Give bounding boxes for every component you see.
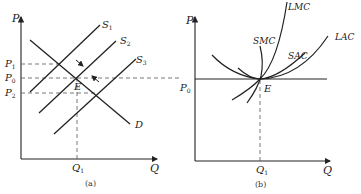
economics-diagram: P Q P1 P0 P2 Q1 S1 S2 S3 D E (a) P Q P0 …: [0, 0, 361, 194]
lac-label: LAC: [334, 32, 354, 42]
sac-label: SAC: [288, 51, 308, 61]
caption-b: (b): [255, 180, 266, 189]
p1-label: P1: [4, 58, 16, 70]
panel-a: P Q P1 P0 P2 Q1 S1 S2 S3 D E (a): [4, 12, 180, 188]
p2-label: P2: [4, 87, 16, 99]
p0-label-b: P0: [179, 82, 191, 94]
q-axis-label-b: Q: [323, 164, 332, 177]
q-axis-label-a: Q: [150, 162, 159, 175]
e-label-b: E: [263, 83, 272, 94]
p0-label-a: P0: [4, 72, 16, 84]
lmc-curve: [232, 2, 287, 100]
arrow-down-icon: [76, 60, 83, 66]
s1-curve: [30, 25, 100, 92]
p-axis-label-b: P: [185, 14, 194, 27]
s3-label: S3: [136, 54, 147, 66]
lmc-label: LMC: [287, 2, 310, 12]
p-axis-label-a: P: [11, 12, 20, 25]
s2-label: S2: [120, 35, 131, 47]
d-label: D: [134, 119, 143, 130]
arrow-up-icon: [92, 76, 99, 82]
smc-label: SMC: [253, 36, 275, 46]
q1-label-a: Q1: [72, 162, 84, 174]
q1-label-b: Q1: [256, 164, 268, 176]
e-label-a: E: [73, 81, 82, 92]
caption-a: (a): [85, 179, 96, 188]
panel-b: P Q P0 Q1 LMC SMC SAC LAC E (b): [179, 2, 354, 189]
s1-label: S1: [102, 19, 113, 31]
